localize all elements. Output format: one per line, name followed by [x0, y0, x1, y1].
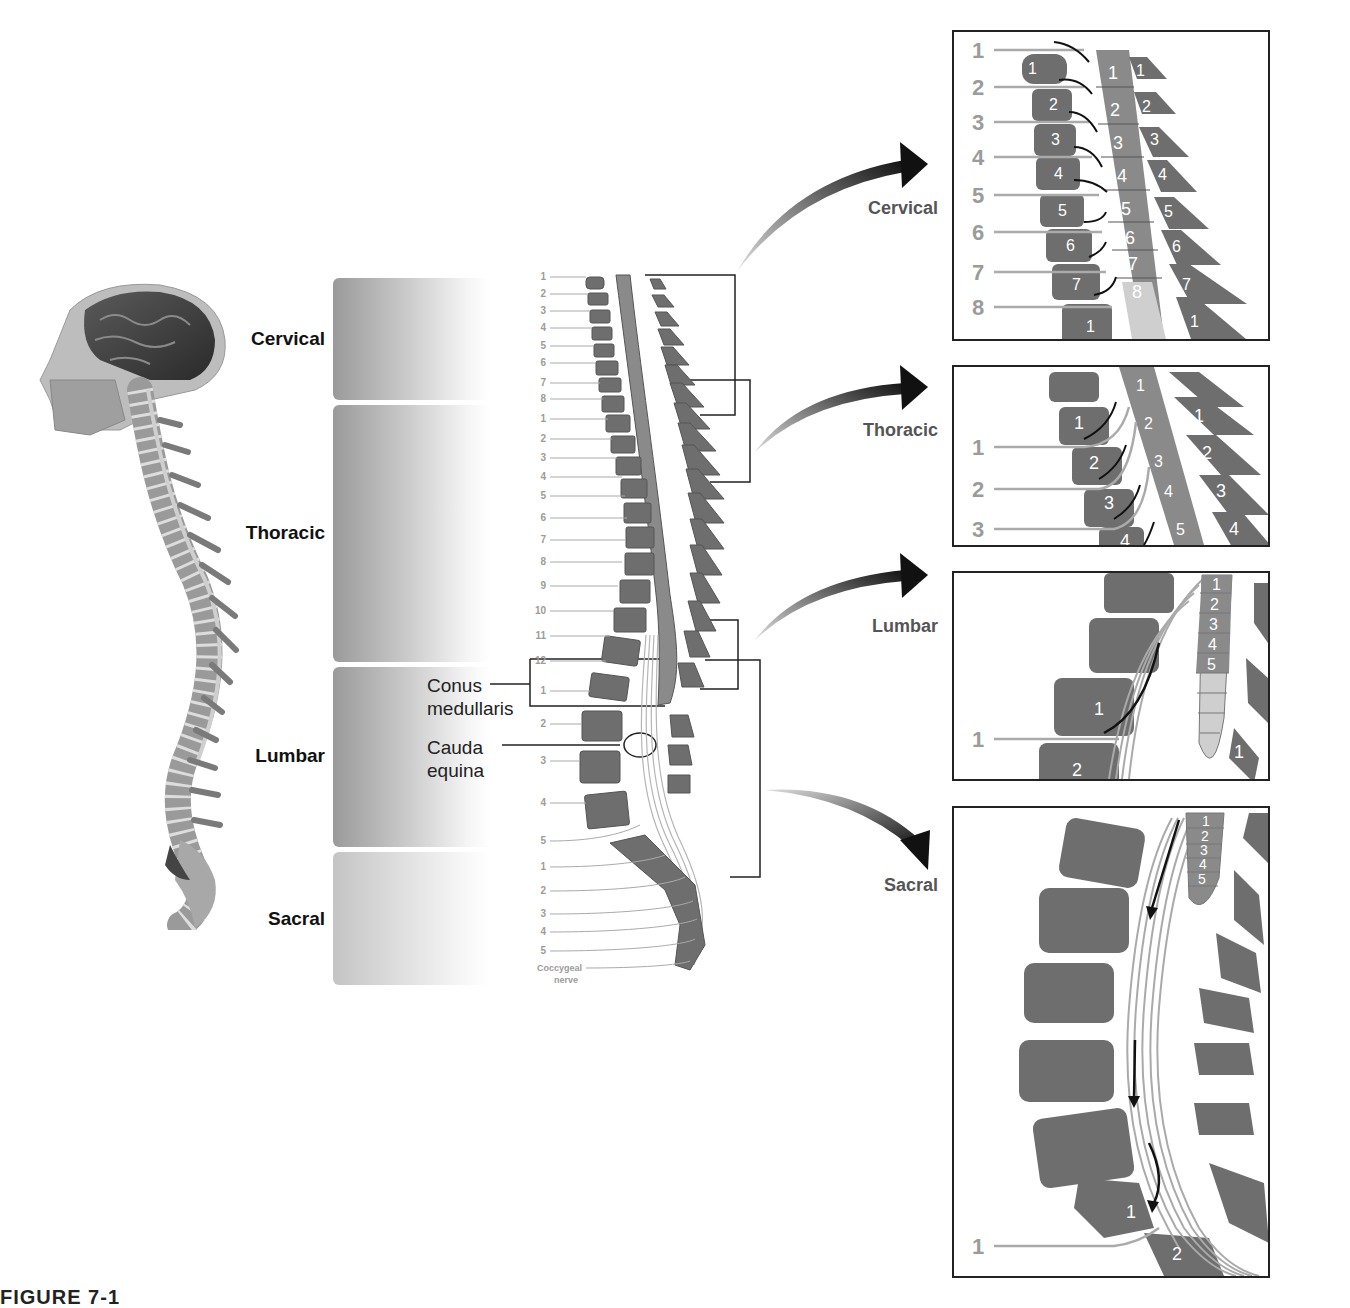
svg-text:1: 1: [1126, 1202, 1136, 1222]
panel-label-sacral: Sacral: [838, 875, 938, 896]
nerve-s3: 3: [540, 908, 546, 919]
svg-text:4: 4: [1164, 483, 1173, 500]
cord-seg-c1: 1: [1108, 63, 1118, 83]
svg-text:5: 5: [1121, 199, 1131, 219]
nerve-t7: 7: [540, 534, 546, 545]
region-label-sacral: Sacral: [225, 908, 325, 930]
svg-text:4: 4: [1054, 165, 1063, 182]
svg-text:2: 2: [1210, 596, 1219, 613]
svg-text:6: 6: [972, 220, 984, 245]
svg-text:7: 7: [972, 260, 984, 285]
svg-text:5: 5: [1058, 202, 1067, 219]
svg-text:4: 4: [1117, 166, 1127, 186]
svg-text:2: 2: [1049, 96, 1058, 113]
nerve-t11: 11: [535, 630, 546, 641]
nerve-l5: 5: [540, 835, 546, 846]
svg-text:2: 2: [1072, 760, 1082, 779]
svg-text:2: 2: [1202, 443, 1212, 463]
svg-text:7: 7: [1182, 276, 1191, 293]
annotation-cauda-equina: Cauda equina: [427, 736, 484, 782]
svg-text:1: 1: [1086, 318, 1095, 335]
svg-text:4: 4: [1120, 531, 1130, 545]
svg-text:5: 5: [1198, 871, 1206, 887]
cervical-nerve-1: 1: [972, 38, 984, 63]
svg-text:3: 3: [1154, 453, 1163, 470]
svg-text:5: 5: [1176, 521, 1185, 538]
svg-text:3: 3: [1209, 616, 1218, 633]
nerve-l3: 3: [540, 755, 546, 766]
thoracic-detail-panel: 12345 12341234 123: [952, 365, 1270, 547]
figure-caption: FIGURE 7-1: [0, 1286, 120, 1308]
nerve-l1: 1: [540, 685, 546, 696]
svg-text:6: 6: [1172, 238, 1181, 255]
svg-text:1: 1: [1028, 60, 1037, 77]
nerve-t12: 12: [535, 655, 547, 666]
nerve-c2: 2: [540, 288, 546, 299]
svg-text:4: 4: [1208, 636, 1217, 653]
svg-text:1: 1: [972, 435, 984, 460]
svg-text:3: 3: [1216, 481, 1226, 501]
region-label-cervical: Cervical: [225, 328, 325, 350]
nerve-c4: 4: [540, 322, 546, 333]
band-sacral: [333, 852, 490, 985]
svg-text:1: 1: [1234, 742, 1244, 762]
coccygeal-nerve-label: nerve: [554, 975, 578, 985]
nerve-s5: 5: [540, 945, 546, 956]
svg-text:5: 5: [1164, 203, 1173, 220]
svg-text:1: 1: [1094, 699, 1104, 719]
nerve-c5: 5: [540, 340, 546, 351]
nerve-l2: 2: [540, 718, 546, 729]
nerve-t1: 1: [540, 413, 546, 424]
svg-text:1: 1: [1202, 813, 1210, 829]
nerve-c7: 7: [540, 377, 546, 388]
coccygeal-label: Coccygeal: [537, 963, 582, 973]
svg-text:3: 3: [972, 110, 984, 135]
svg-text:1: 1: [1074, 413, 1084, 433]
svg-text:8: 8: [1132, 282, 1142, 302]
svg-text:8: 8: [972, 295, 984, 320]
svg-text:5: 5: [1207, 656, 1216, 673]
nerve-t4: 4: [540, 471, 546, 482]
nerve-t10: 10: [535, 605, 547, 616]
sacral-detail-panel: 12345 12 1: [952, 806, 1270, 1278]
band-thoracic: [333, 405, 490, 662]
svg-text:6: 6: [1125, 228, 1135, 248]
svg-text:3: 3: [1113, 133, 1123, 153]
svg-text:4: 4: [1158, 166, 1167, 183]
nerve-t9: 9: [540, 580, 546, 591]
connector-arrows: [730, 130, 960, 890]
svg-text:2: 2: [1089, 453, 1099, 473]
svg-text:3: 3: [1051, 131, 1060, 148]
svg-text:3: 3: [972, 517, 984, 542]
svg-text:1: 1: [972, 1234, 984, 1259]
cervical-detail-panel: 12345678 1234567112345671 12345678: [952, 30, 1270, 341]
svg-text:1: 1: [972, 727, 984, 752]
svg-text:1: 1: [1136, 377, 1145, 394]
svg-text:2: 2: [1172, 1244, 1182, 1264]
nerve-t6: 6: [540, 512, 546, 523]
svg-text:6: 6: [1066, 237, 1075, 254]
svg-text:7: 7: [1072, 276, 1081, 293]
svg-text:1: 1: [1190, 313, 1199, 330]
nerve-s2: 2: [540, 885, 546, 896]
nerve-s1: 1: [540, 861, 546, 872]
svg-text:1: 1: [1212, 576, 1221, 593]
panel-label-lumbar: Lumbar: [838, 616, 938, 637]
lumbar-detail-panel: 12345 121 1: [952, 571, 1270, 781]
svg-text:3: 3: [1150, 131, 1159, 148]
svg-text:7: 7: [1128, 254, 1138, 274]
nerve-t3: 3: [540, 452, 546, 463]
nerve-c3: 3: [540, 305, 546, 316]
nerve-t8: 8: [540, 556, 546, 567]
svg-text:2: 2: [972, 477, 984, 502]
svg-text:2: 2: [1144, 415, 1153, 432]
nerve-c8: 8: [540, 393, 546, 404]
head-spine-illustration: [30, 280, 260, 930]
panel-label-thoracic: Thoracic: [838, 420, 938, 441]
svg-text:2: 2: [1142, 98, 1151, 115]
arrow-to-sacral-panel: [765, 790, 930, 870]
svg-text:1: 1: [1194, 406, 1204, 426]
nerve-s4: 4: [540, 926, 546, 937]
panel-label-cervical: Cervical: [838, 198, 938, 219]
svg-text:5: 5: [972, 183, 984, 208]
